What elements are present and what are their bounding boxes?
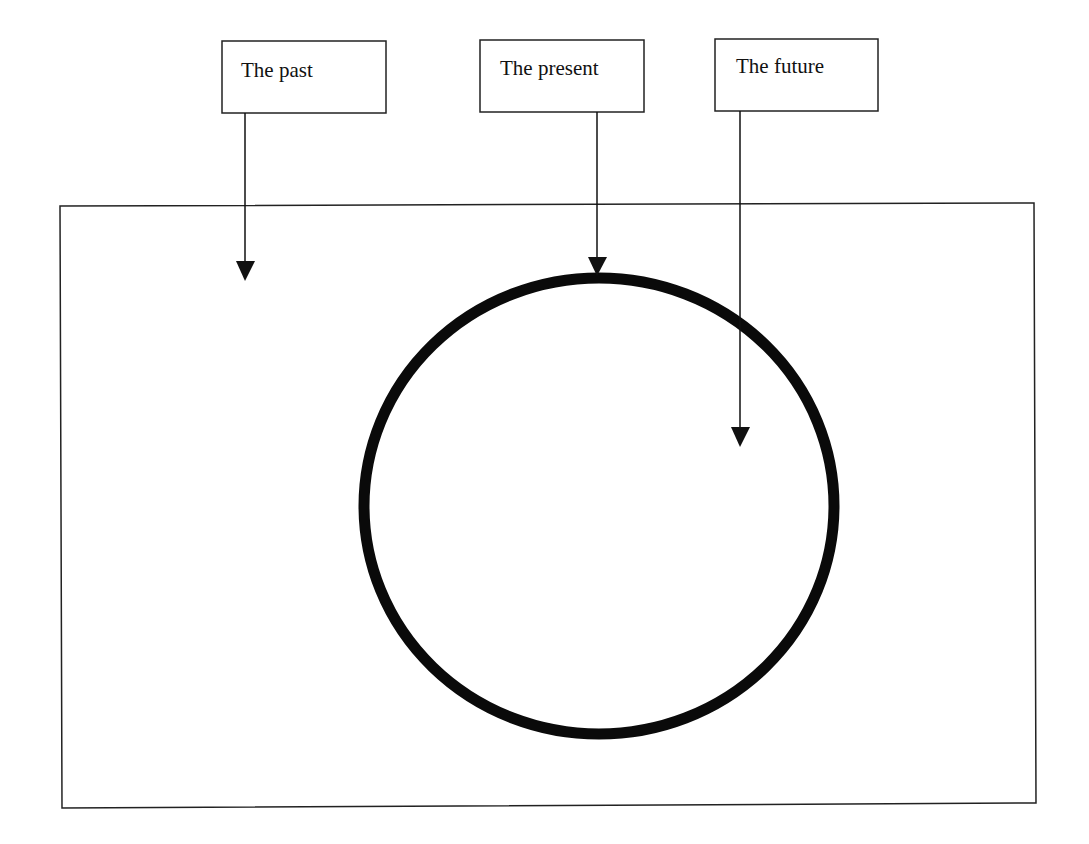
time-diagram: The past The present The future bbox=[0, 0, 1089, 844]
future-label: The future bbox=[736, 54, 824, 78]
label-box-past: The past bbox=[222, 41, 386, 113]
past-label: The past bbox=[241, 58, 313, 82]
arrow-past bbox=[236, 113, 255, 281]
arrow-present bbox=[588, 112, 607, 276]
arrow-future bbox=[731, 111, 750, 447]
arrow-down-icon bbox=[236, 261, 255, 281]
label-box-future: The future bbox=[715, 39, 878, 111]
present-label: The present bbox=[500, 56, 599, 80]
arrow-down-icon bbox=[731, 427, 750, 447]
present-circle bbox=[364, 278, 834, 734]
label-box-present: The present bbox=[480, 40, 644, 112]
outer-frame bbox=[60, 203, 1036, 808]
